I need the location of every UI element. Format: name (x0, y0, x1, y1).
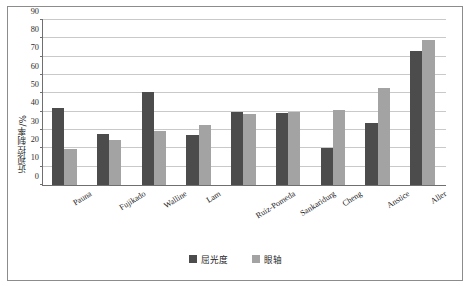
legend-swatch-icon (189, 255, 197, 263)
chart-frame: 近视控制率/% 0102030405060708090 PaunaFujikad… (7, 6, 463, 281)
bar (154, 131, 166, 185)
bar (199, 125, 211, 186)
y-tick-label: 40 (31, 99, 39, 107)
bar (321, 148, 333, 185)
legend-label: 屈光度 (201, 253, 228, 265)
y-tick-label: 0 (35, 173, 39, 181)
bar (109, 140, 121, 185)
y-tick-label: 60 (31, 63, 39, 71)
bar-group (88, 20, 133, 185)
bar (365, 123, 377, 185)
bar-group (267, 20, 312, 185)
x-tick-label: Walline (162, 190, 188, 210)
y-tick-label: 50 (31, 81, 39, 89)
bar (142, 92, 154, 186)
bar (333, 110, 345, 185)
y-tick-label: 70 (31, 44, 39, 52)
bar (243, 114, 255, 186)
bar-group (177, 20, 222, 185)
y-tick-label: 20 (31, 136, 39, 144)
x-tick-label: Fujikado (118, 190, 147, 212)
y-tick-label: 10 (31, 154, 39, 162)
bar (276, 113, 288, 185)
y-tick-label: 80 (31, 26, 39, 34)
bar (410, 51, 422, 185)
bar (97, 134, 109, 185)
legend-item[interactable]: 眼轴 (252, 253, 282, 265)
x-tick-label: Aller (430, 190, 449, 206)
bar (64, 149, 76, 185)
chart-legend: 屈光度眼轴 (8, 253, 462, 265)
x-tick-label: Anstice (386, 190, 412, 210)
plot-area: 0102030405060708090 PaunaFujikadoWalline… (42, 20, 446, 186)
bar-group (401, 20, 446, 185)
bar (52, 108, 64, 185)
bar-group (133, 20, 178, 185)
bar (422, 40, 434, 185)
bar (186, 135, 198, 185)
bar (288, 112, 300, 185)
y-axis-title: 近视控制率/% (17, 114, 29, 173)
legend-label: 眼轴 (264, 253, 282, 265)
bar (378, 88, 390, 185)
x-tick-label: Cheng (341, 190, 363, 208)
x-tick-label: Sankaridurg (299, 190, 337, 218)
x-tick-label: Ruiz-Pomeda (255, 190, 297, 221)
bar-group (356, 20, 401, 185)
bars-layer (43, 20, 446, 185)
bar-group (222, 20, 267, 185)
y-tick-label: 90 (31, 8, 39, 16)
y-tick-label: 30 (31, 118, 39, 126)
x-tick-label: Lam (206, 190, 223, 205)
legend-item[interactable]: 屈光度 (189, 253, 228, 265)
bar-group (43, 20, 88, 185)
bar (231, 112, 243, 185)
x-tick-label: Pauna (72, 190, 93, 208)
bar-group (312, 20, 357, 185)
legend-swatch-icon (252, 255, 260, 263)
